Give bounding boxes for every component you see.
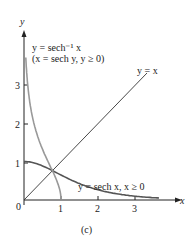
caption: (c) <box>81 224 92 236</box>
chart: 0 1 2 3 1 2 3 y x y = sech⁻¹ x (x = sech… <box>0 0 190 248</box>
identity-label: y = x <box>137 65 158 76</box>
y-axis-label: y <box>19 16 25 27</box>
x-tick-label-1: 1 <box>58 203 63 214</box>
y-tick-label-3: 3 <box>15 80 20 91</box>
sech-curve <box>24 162 159 199</box>
y-tick-label-1: 1 <box>15 158 20 169</box>
x-tick-label-3: 3 <box>132 203 137 214</box>
x-axis-label: x <box>179 195 185 206</box>
sech-label: y = sech x, x ≥ 0 <box>78 181 144 192</box>
y-tick-label-2: 2 <box>15 119 20 130</box>
origin-label: 0 <box>16 201 21 212</box>
arcsech-label: y = sech⁻¹ x <box>32 42 81 53</box>
x-tick-label-2: 2 <box>95 203 100 214</box>
arcsech-label-note: (x = sech y, y ≥ 0) <box>32 53 104 65</box>
arcsech-curve <box>26 58 61 201</box>
y-axis-arrow-icon <box>22 30 27 37</box>
